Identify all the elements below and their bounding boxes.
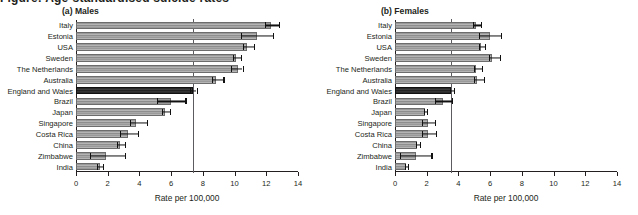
x-tick: [427, 172, 428, 176]
error-bar-cap: [212, 77, 213, 83]
y-axis-category-label: China: [372, 140, 392, 149]
error-bar-cap: [125, 153, 126, 159]
error-bar-cap: [420, 142, 421, 148]
error-bar: [243, 47, 254, 48]
error-bar-cap: [190, 88, 191, 94]
x-axis-title-females: Rate per 100,000: [474, 193, 539, 203]
bar: [395, 43, 481, 51]
error-bar: [400, 155, 432, 156]
plot-area-females: Rate per 100,000 02468101214ItalyEstonia…: [395, 20, 617, 172]
bar: [76, 87, 193, 95]
x-tick: [298, 172, 299, 176]
y-axis-category-label: The Netherlands: [336, 64, 392, 73]
error-bar-cap: [408, 164, 409, 170]
y-axis-category-label: India: [376, 162, 392, 171]
error-bar-cap: [103, 164, 104, 170]
error-bar: [474, 79, 484, 80]
bar-row: India: [76, 163, 298, 171]
error-bar-cap: [273, 33, 274, 39]
x-tick-label: 4: [456, 179, 460, 188]
bar-row: Zimbabwe: [76, 152, 298, 160]
x-tick-label: 14: [294, 179, 302, 188]
x-tick: [522, 172, 523, 176]
error-bar-cap: [117, 142, 118, 148]
bar-row: Sweden: [76, 54, 298, 62]
error-bar-cap: [231, 66, 232, 72]
bar: [395, 65, 476, 73]
error-bar-cap: [241, 55, 242, 61]
bar: [395, 108, 425, 116]
error-bar-cap: [501, 33, 502, 39]
bar: [76, 54, 236, 62]
error-bar-cap: [405, 164, 406, 170]
x-tick-label: 2: [425, 179, 429, 188]
x-tick: [617, 172, 618, 176]
error-bar-cap: [265, 22, 266, 28]
bar-row: USA: [76, 43, 298, 51]
x-tick-label: 12: [581, 179, 589, 188]
error-bar-cap: [474, 77, 475, 83]
error-bar: [90, 155, 125, 156]
error-bar-cap: [197, 88, 198, 94]
y-axis-category-label: Costa Rica: [36, 129, 73, 138]
bar-row: Costa Rica: [395, 130, 617, 138]
x-tick-label: 6: [169, 179, 173, 188]
y-axis-category-label: England and Wales: [7, 86, 73, 95]
error-bar-cap: [162, 109, 163, 115]
error-bar-cap: [435, 120, 436, 126]
bar-row: England and Wales: [395, 87, 617, 95]
bar: [395, 141, 417, 149]
x-axis-line: [395, 171, 617, 172]
error-bar-cap: [474, 66, 475, 72]
x-tick: [458, 172, 459, 176]
reference-line: [451, 19, 452, 173]
error-bar: [435, 101, 452, 102]
bar: [76, 76, 216, 84]
x-tick: [139, 172, 140, 176]
x-tick-label: 10: [549, 179, 557, 188]
error-bar: [265, 25, 279, 26]
bar-row: Estonia: [395, 32, 617, 40]
bar-row: Australia: [395, 76, 617, 84]
bar-row: China: [76, 141, 298, 149]
error-bar-cap: [233, 55, 234, 61]
y-axis-category-label: China: [53, 140, 73, 149]
error-bar-cap: [450, 88, 451, 94]
error-bar-cap: [422, 131, 423, 137]
bar: [395, 32, 490, 40]
x-tick: [554, 172, 555, 176]
x-tick: [395, 172, 396, 176]
error-bar-cap: [473, 22, 474, 28]
error-bar-cap: [452, 98, 453, 104]
x-tick-label: 14: [613, 179, 621, 188]
x-tick-label: 0: [74, 179, 78, 188]
bar-row: Australia: [76, 76, 298, 84]
y-axis-category-label: Australia: [362, 75, 392, 84]
bar-row: Brazil: [76, 98, 298, 106]
bar-row: The Netherlands: [395, 65, 617, 73]
y-axis-category-label: Singapore: [38, 119, 73, 128]
error-bar-cap: [479, 44, 480, 50]
error-bar-cap: [120, 131, 121, 137]
x-tick-label: 8: [520, 179, 524, 188]
y-axis-category-label: Brazil: [373, 97, 392, 106]
error-bar-cap: [436, 131, 437, 137]
x-tick: [76, 172, 77, 176]
x-tick-label: 6: [488, 179, 492, 188]
x-tick: [235, 172, 236, 176]
error-bar-cap: [484, 77, 485, 83]
x-axis-title-males: Rate per 100,000: [155, 193, 220, 203]
x-tick-label: 10: [230, 179, 238, 188]
y-axis-category-label: Estonia: [367, 32, 392, 41]
bar-row: USA: [395, 43, 617, 51]
error-bar-cap: [479, 33, 480, 39]
bar-row: Zimbabwe: [395, 152, 617, 160]
x-tick: [585, 172, 586, 176]
error-bar-cap: [454, 88, 455, 94]
error-bar-cap: [254, 44, 255, 50]
bar-row: England and Wales: [76, 87, 298, 95]
x-tick-label: 0: [393, 179, 397, 188]
error-bar-cap: [427, 109, 428, 115]
x-tick-label: 12: [262, 179, 270, 188]
bar-row: India: [395, 163, 617, 171]
